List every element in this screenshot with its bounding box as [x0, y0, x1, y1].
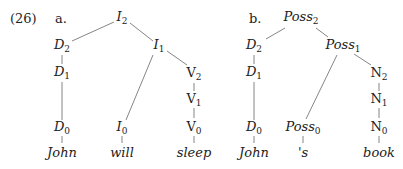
- node-a-I1: I1: [154, 38, 165, 54]
- node-b-N1: N1: [370, 92, 387, 108]
- node-a-D0: D0: [54, 120, 70, 136]
- leaf-b-john: John: [239, 146, 269, 159]
- leaf-a-sleep: sleep: [177, 146, 212, 159]
- node-a-D2: D2: [54, 38, 70, 54]
- node-b-N0: N0: [370, 120, 387, 136]
- node-a-D1: D1: [54, 65, 70, 81]
- example-number: (26): [10, 11, 37, 26]
- leaf-b-s: 's: [298, 146, 308, 159]
- node-b-N2: N2: [370, 66, 387, 82]
- tree-a-label: a.: [55, 11, 67, 26]
- leaf-b-book: book: [363, 146, 395, 159]
- node-a-V2: V2: [186, 66, 201, 82]
- node-b-Poss1: Poss1: [325, 38, 360, 54]
- node-a-V0: V0: [186, 120, 201, 136]
- node-a-I0: I0: [117, 120, 128, 136]
- node-a-I2: I2: [117, 10, 128, 26]
- node-b-Poss2: Poss2: [283, 10, 318, 26]
- node-b-D2: D2: [246, 38, 262, 54]
- leaf-a-will: will: [110, 146, 134, 159]
- node-a-V1: V1: [186, 92, 201, 108]
- leaf-a-john: John: [47, 146, 77, 159]
- node-b-D1: D1: [246, 65, 262, 81]
- node-b-D0: D0: [246, 120, 262, 136]
- tree-b-label: b.: [249, 11, 261, 26]
- node-b-Poss0: Poss0: [285, 120, 320, 136]
